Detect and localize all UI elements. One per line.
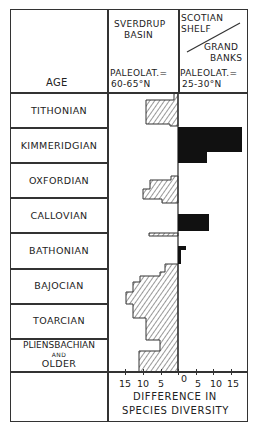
header-diagonal-layer — [0, 0, 256, 432]
header-diagonal-line — [187, 23, 240, 52]
